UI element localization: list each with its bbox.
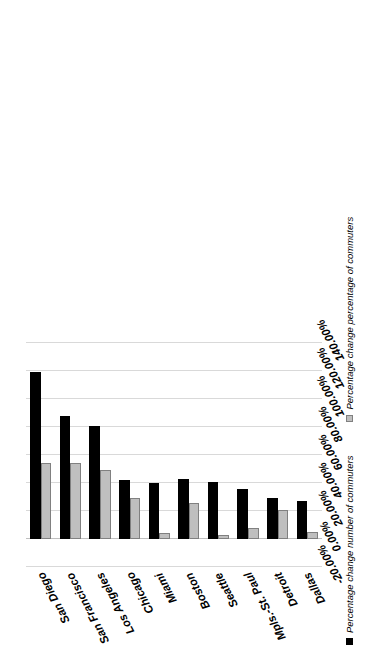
- chart-legend: Percentage change number of commutersPer…: [344, 0, 382, 653]
- category-axis: San DiegoSan FranciscoLos AngelesChicago…: [26, 567, 322, 653]
- category-label: Miami: [154, 570, 179, 604]
- category-label: Boston: [183, 570, 212, 610]
- chart-rotation-wrapper: San DiegoSan FranciscoLos AngelesChicago…: [0, 0, 382, 653]
- plot-area: [26, 343, 322, 567]
- bar: [208, 482, 219, 539]
- bar: [248, 528, 259, 539]
- bar: [70, 463, 81, 539]
- bar: [178, 479, 189, 539]
- bar-group: [26, 343, 56, 567]
- bar: [100, 470, 111, 539]
- bar-group: [233, 343, 263, 567]
- bar-group: [85, 343, 115, 567]
- bar: [30, 372, 41, 539]
- category-label: Chicago: [124, 570, 155, 615]
- category-label: Seattle: [213, 570, 241, 609]
- bar-group: [174, 343, 204, 567]
- bar: [307, 532, 318, 539]
- bar: [237, 489, 248, 539]
- bar-group: [56, 343, 86, 567]
- category-label: Dallas: [302, 570, 328, 605]
- bar: [41, 463, 52, 539]
- category-label: Detroit: [272, 570, 300, 608]
- bar: [159, 533, 170, 539]
- bar: [218, 535, 229, 539]
- legend-label: Percentage change number of commuters: [344, 456, 355, 633]
- bar-chart: San DiegoSan FranciscoLos AngelesChicago…: [0, 0, 382, 653]
- bar-group: [263, 343, 293, 567]
- bar: [119, 480, 130, 539]
- bar-group: [115, 343, 145, 567]
- legend-item[interactable]: Percentage change number of commuters: [344, 456, 355, 645]
- bar-group: [204, 343, 234, 567]
- black-square-swatch: [346, 638, 353, 645]
- bar: [267, 498, 278, 539]
- bar: [278, 510, 289, 539]
- bar-group: [144, 343, 174, 567]
- bar: [60, 416, 71, 539]
- legend-label: Percentage change percentage of commuter…: [344, 217, 355, 410]
- bar: [189, 503, 200, 539]
- legend-item[interactable]: Percentage change percentage of commuter…: [344, 217, 355, 422]
- gray-square-swatch: [346, 415, 353, 422]
- bar: [149, 483, 160, 539]
- bar: [297, 501, 308, 539]
- bar: [130, 498, 141, 539]
- bar: [89, 426, 100, 539]
